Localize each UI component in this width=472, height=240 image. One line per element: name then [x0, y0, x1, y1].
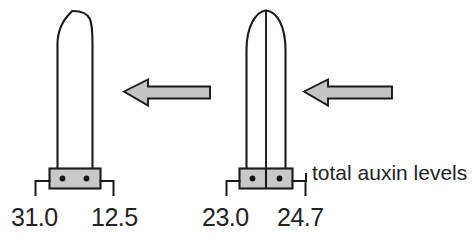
arrow-left [124, 80, 210, 106]
right-value-right: 24.7 [277, 203, 324, 231]
left-bracket-leader-left [36, 181, 51, 196]
auxin-diagram-figure: 31.0 12.5 23.0 24.7 [0, 0, 472, 240]
right-bracket-leader-right [292, 181, 306, 196]
left-value-left: 31.0 [11, 203, 58, 231]
right-agar-dot-right [277, 176, 283, 182]
right-agar-dot-left [250, 176, 256, 182]
right-bracket-leader-left [227, 181, 241, 196]
diagram-canvas: 31.0 12.5 23.0 24.7 [0, 0, 472, 240]
total-auxin-levels-label: total auxin levels [312, 161, 467, 184]
right-value-left: 23.0 [202, 203, 249, 231]
arrow-left-shape [124, 80, 210, 106]
left-coleoptile-specimen: 31.0 12.5 [11, 11, 138, 231]
left-agar-block [50, 169, 101, 189]
left-agar-dot-right [84, 176, 90, 182]
right-coleoptile-specimen: 23.0 24.7 [202, 11, 324, 232]
arrow-right [304, 80, 392, 106]
caption-leader-tick [292, 173, 306, 181]
left-agar-dot-left [60, 176, 66, 182]
left-bracket-leader-right [100, 181, 114, 196]
arrow-right-shape [304, 80, 392, 106]
left-value-right: 12.5 [91, 203, 138, 231]
left-coleoptile-body [58, 11, 93, 170]
